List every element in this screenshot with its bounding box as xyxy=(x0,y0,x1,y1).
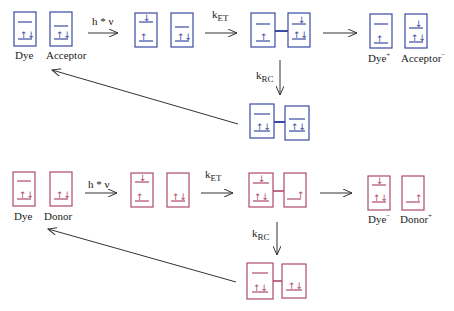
reaction-arrows xyxy=(48,33,357,282)
svg-text:↑: ↑ xyxy=(297,190,305,200)
svg-text:↑: ↑ xyxy=(260,32,268,42)
k-et-label-bottom: kET xyxy=(205,168,222,183)
svg-text:↓: ↓ xyxy=(143,13,151,23)
svg-text:↓: ↓ xyxy=(139,173,147,183)
svg-text:↓: ↓ xyxy=(415,19,423,29)
svg-text:↑↓: ↑↓ xyxy=(172,192,187,202)
k-rc-label: kRC xyxy=(256,69,274,84)
svg-text:↑↓: ↑↓ xyxy=(256,122,271,132)
svg-text:↑↓: ↑↓ xyxy=(411,33,426,43)
svg-text:↓: ↓ xyxy=(258,174,266,184)
svg-text:↑: ↑ xyxy=(415,193,423,203)
svg-text:↑↓: ↑↓ xyxy=(56,30,71,40)
svg-text:↑↓: ↑↓ xyxy=(19,190,34,200)
label-donor: Donor xyxy=(44,210,72,222)
label-dye-plus: Dye+ xyxy=(368,51,390,64)
electron-spins-top: ↑↓↑↓ ↓↑↑↓ ↑↓↑↓ ↑↓↑↓ ↑↓↑↓ xyxy=(20,13,426,132)
k-rc-label-bottom: kRC xyxy=(252,227,270,242)
svg-text:↑: ↑ xyxy=(140,32,148,42)
svg-text:↑↓: ↑↓ xyxy=(373,193,388,203)
label-donor-plus: Donor+ xyxy=(400,212,432,225)
diagram-canvas: ↑↓↑↓ ↓↑↑↓ ↑↓↑↓ ↑↓↑↓ ↑↓↑↓ ↑↓↑↓ ↓↑↑↓ ↓↑↓↑ … xyxy=(0,0,454,311)
svg-text:↑↓: ↑↓ xyxy=(56,190,71,200)
svg-text:↑: ↑ xyxy=(136,192,144,202)
svg-text:↑↓: ↑↓ xyxy=(253,283,268,293)
k-et-label: kET xyxy=(212,8,229,23)
svg-text:↑↓: ↑↓ xyxy=(20,30,35,40)
svg-text:↑↓: ↑↓ xyxy=(288,281,303,291)
excitation-label-bottom: h * ν xyxy=(88,178,109,190)
excitation-label: h * ν xyxy=(92,15,113,27)
acceptor-row-boxes xyxy=(14,12,427,140)
svg-text:↓: ↓ xyxy=(376,176,384,186)
svg-text:↑: ↑ xyxy=(376,34,384,44)
svg-text:↑↓: ↑↓ xyxy=(254,192,269,202)
svg-text:↑↓: ↑↓ xyxy=(293,30,308,40)
label-dye-minus: Dye− xyxy=(368,212,390,225)
label-dye: Dye xyxy=(15,49,33,61)
svg-text:↑↓: ↑↓ xyxy=(177,32,192,42)
label-acceptor-minus: Acceptor− xyxy=(401,51,445,64)
svg-text:↑↓: ↑↓ xyxy=(291,122,306,132)
electron-spins-bottom: ↑↓↑↓ ↓↑↑↓ ↓↑↓↑ ↓↑↓↑ ↑↓↑↓ xyxy=(19,173,423,293)
label-acceptor: Acceptor xyxy=(46,49,86,61)
donor-row-boxes xyxy=(13,172,424,299)
svg-text:↓: ↓ xyxy=(298,15,306,25)
label-dye-bottom: Dye xyxy=(14,210,32,222)
